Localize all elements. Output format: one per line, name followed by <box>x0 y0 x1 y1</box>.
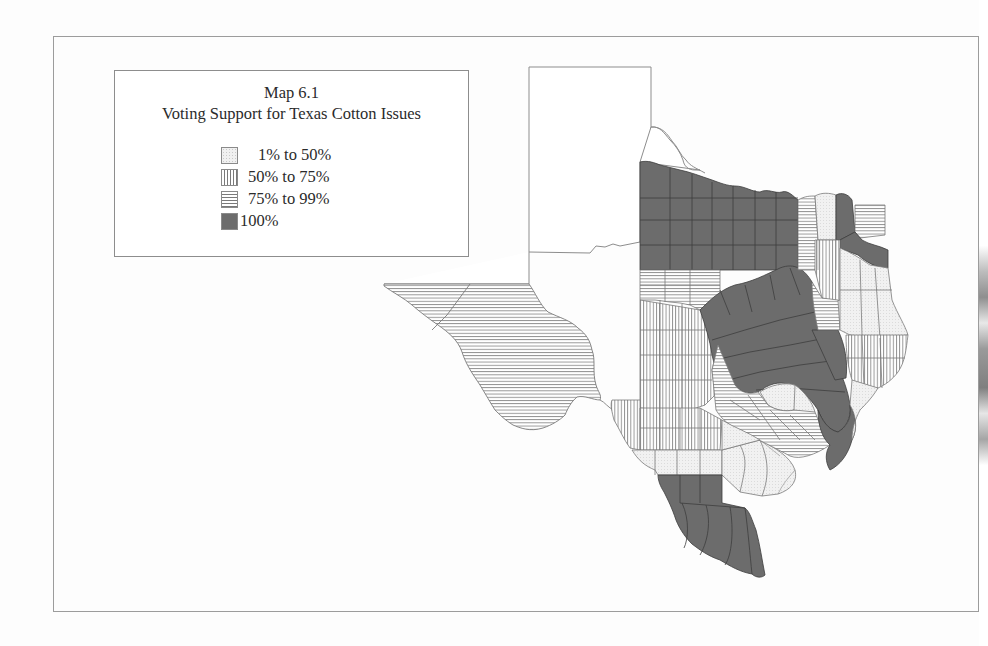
legend-label: 75% to 99% <box>248 189 330 209</box>
horizontal-hatch-swatch-icon <box>221 191 238 208</box>
legend-item-medium: 50% to 75% <box>221 168 330 186</box>
legend-label: 50% to 75% <box>248 167 330 187</box>
vertical-hatch-swatch-icon <box>221 169 238 186</box>
legend-item-full: 100% <box>221 212 279 230</box>
solid-swatch-icon <box>221 213 238 230</box>
map-legend: Map 6.1 Voting Support for Texas Cotton … <box>114 70 469 257</box>
dotted-swatch-icon <box>221 147 238 164</box>
legend-label: 100% <box>240 211 279 231</box>
map-subtitle: Voting Support for Texas Cotton Issues <box>115 104 468 124</box>
legend-item-low: 1% to 50% <box>221 146 331 164</box>
map-title: Map 6.1 <box>115 83 468 103</box>
legend-item-high: 75% to 99% <box>221 190 330 208</box>
far-west-texas <box>384 284 601 430</box>
north-red-river-belt <box>640 161 798 270</box>
legend-label: 1% to 50% <box>258 145 331 165</box>
